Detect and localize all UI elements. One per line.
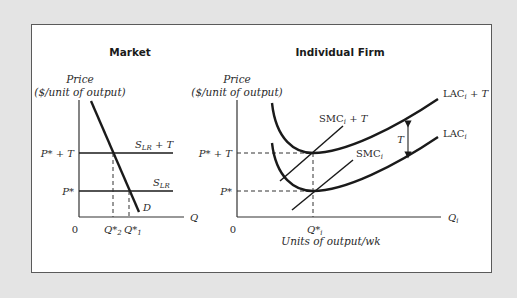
firm-tax-arrow-label: T: [397, 134, 405, 145]
firm-panel: Individual Firm Price ($/unit of output)…: [191, 46, 489, 247]
market-demand-label: D: [142, 202, 151, 213]
market-y-axis-units: ($/unit of output): [34, 86, 125, 98]
firm-origin-label: 0: [230, 224, 236, 235]
market-price-low-label: P*: [61, 186, 74, 197]
economics-diagram: Market Price ($/unit of output) P* + T P…: [0, 0, 517, 298]
market-y-axis-title: Price: [65, 73, 94, 85]
firm-y-axis-units: ($/unit of output): [191, 86, 282, 98]
firm-smc-tax-label: SMCi + T: [319, 113, 369, 126]
market-q2-label: Q*2: [104, 224, 122, 237]
market-price-high-label: P* + T: [40, 148, 75, 159]
market-title: Market: [109, 46, 151, 58]
firm-price-high-label: P* + T: [198, 148, 233, 159]
market-panel: Market Price ($/unit of output) P* + T P…: [34, 46, 198, 237]
market-q1-label: Q*1: [124, 224, 142, 237]
firm-x-axis-title: Units of output/wk: [281, 235, 380, 247]
market-x-axis-label: Q: [190, 212, 198, 223]
firm-smc-label: SMCi: [356, 148, 383, 161]
firm-title: Individual Firm: [295, 46, 384, 58]
firm-lac-with-tax-curve: [272, 99, 438, 153]
firm-lac-curve: [272, 137, 438, 191]
market-supply-tax-label: SLR + T: [135, 139, 175, 152]
market-supply-label: SLR: [153, 177, 171, 190]
market-origin-label: 0: [72, 224, 78, 235]
firm-lac-tax-label: LACi + T: [443, 88, 490, 101]
market-demand-line: [91, 101, 139, 212]
firm-x-axis-label: Qi: [448, 212, 458, 225]
firm-lac-label: LACi: [443, 128, 467, 141]
firm-y-axis-title: Price: [222, 73, 251, 85]
firm-price-low-label: P*: [219, 186, 232, 197]
